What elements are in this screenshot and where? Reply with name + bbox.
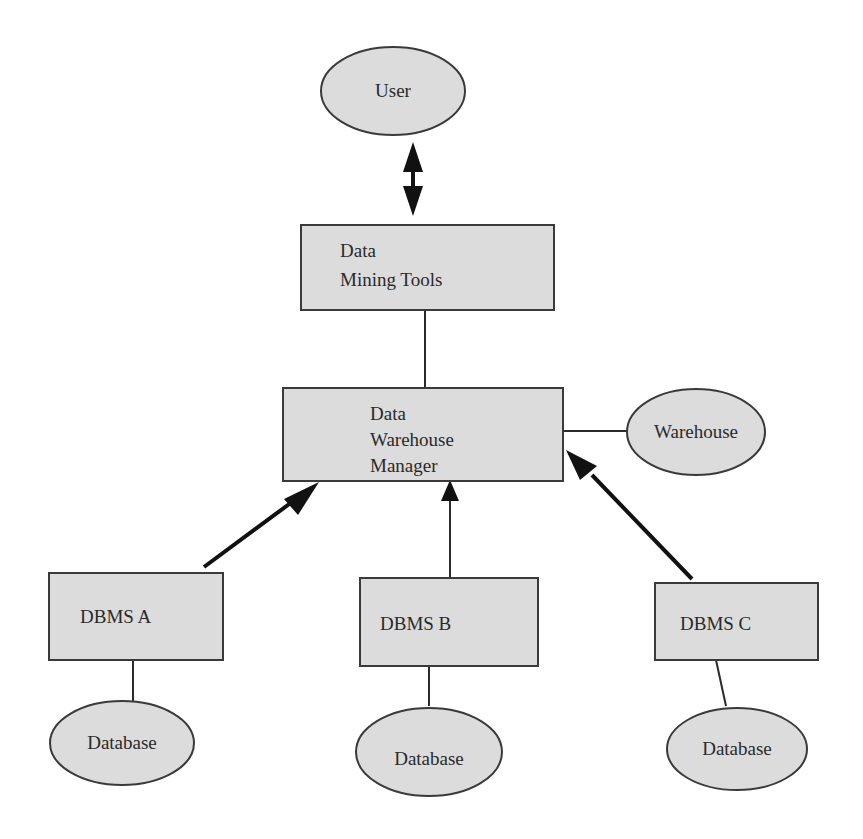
node-data-warehouse-manager: Data Warehouse Manager xyxy=(283,388,563,481)
node-dbms-c-label: DBMS C xyxy=(680,613,751,634)
node-dbms-a: DBMS A xyxy=(49,573,223,660)
node-dbms-b-label: DBMS B xyxy=(380,613,451,634)
node-data-warehouse-manager-line-1: Data xyxy=(370,403,406,424)
architecture-diagram: User Data Mining Tools Data Warehouse Ma… xyxy=(0,0,863,839)
node-data-mining-tools-line-2: Mining Tools xyxy=(340,269,442,290)
edge-dbms-b-manager xyxy=(441,480,459,578)
node-database-a-label: Database xyxy=(87,732,157,753)
node-database-b: Database xyxy=(356,708,502,796)
node-database-a: Database xyxy=(50,701,194,785)
node-database-c: Database xyxy=(667,708,807,790)
arrowhead-icon xyxy=(284,482,319,515)
arrow-down-icon xyxy=(403,186,423,216)
node-dbms-b: DBMS B xyxy=(360,578,538,666)
edge-user-mining-tools xyxy=(403,142,423,216)
node-database-c-label: Database xyxy=(702,738,772,759)
edge-dbms-a-manager xyxy=(204,482,319,567)
node-user-label: User xyxy=(375,80,412,101)
arrowhead-icon xyxy=(441,480,459,501)
node-data-mining-tools-line-1: Data xyxy=(340,240,376,261)
node-warehouse-label: Warehouse xyxy=(654,421,738,442)
node-database-b-label: Database xyxy=(394,748,464,769)
node-warehouse: Warehouse xyxy=(627,389,765,475)
node-dbms-c: DBMS C xyxy=(655,583,818,660)
node-data-mining-tools: Data Mining Tools xyxy=(301,225,554,310)
node-data-warehouse-manager-line-3: Manager xyxy=(370,455,438,476)
edge-dbms-c-database xyxy=(716,660,726,706)
node-dbms-a-label: DBMS A xyxy=(80,606,152,627)
node-data-warehouse-manager-line-2: Warehouse xyxy=(370,429,454,450)
arrow-up-icon xyxy=(403,142,423,172)
node-user: User xyxy=(321,47,465,135)
